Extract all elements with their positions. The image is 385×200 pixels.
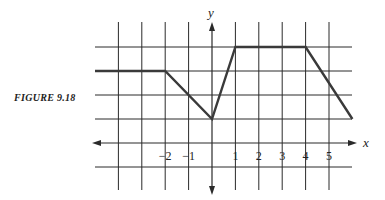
y-axis-down-arrow-icon — [209, 186, 215, 195]
x-tick-label: 2 — [256, 149, 262, 163]
x-axis-left-arrow-icon — [92, 140, 101, 146]
tick-labels: xy−2−112345 — [159, 5, 369, 163]
x-tick-label: 4 — [303, 149, 309, 163]
y-axis-label: y — [206, 5, 214, 20]
x-tick-label: −1 — [182, 149, 195, 163]
axes — [92, 22, 357, 195]
x-axis-label: x — [362, 135, 369, 150]
x-tick-label: 1 — [232, 149, 238, 163]
x-tick-label: 5 — [326, 149, 332, 163]
plot-area: xy−2−112345 — [0, 0, 385, 200]
graph-line — [95, 47, 352, 119]
grid-lines — [95, 22, 352, 190]
x-tick-label: 3 — [279, 149, 285, 163]
x-tick-label: −2 — [159, 149, 172, 163]
y-axis-up-arrow-icon — [209, 22, 215, 31]
x-axis-right-arrow-icon — [348, 140, 357, 146]
data-series-graph — [95, 47, 352, 119]
